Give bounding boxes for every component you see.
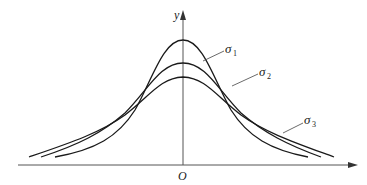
svg-text:2: 2 [267,72,271,81]
svg-text:3: 3 [312,120,316,129]
y-axis-arrow-icon [180,10,186,20]
svg-text:σ: σ [225,41,232,56]
leader-line-sigma2 [232,74,258,86]
y-axis-label: y [173,8,180,22]
curve-sigma1 [55,40,308,157]
label-sigma2: σ 2 [259,64,271,81]
svg-text:1: 1 [233,49,237,58]
x-axis [18,162,358,168]
svg-text:σ: σ [259,64,266,79]
origin-label: O [178,169,187,183]
leader-line-sigma3 [283,123,303,133]
label-sigma1: σ 1 [225,41,237,58]
leader-line-sigma1 [203,51,224,61]
y-axis [180,10,186,165]
label-sigma3: σ 3 [304,112,316,129]
normal-curves-diagram: y O σ 1 σ 2 σ 3 [0,0,367,185]
svg-text:σ: σ [304,112,311,127]
x-axis-arrow-icon [348,162,358,168]
